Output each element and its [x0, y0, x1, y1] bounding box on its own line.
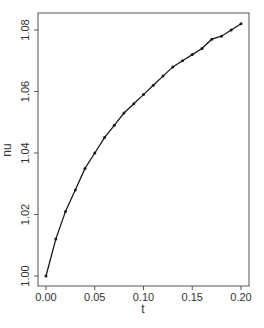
data-point — [103, 136, 106, 139]
data-point — [64, 210, 67, 213]
data-point — [84, 167, 87, 170]
data-point — [210, 38, 213, 41]
y-axis: 1.001.021.041.061.08 — [19, 19, 38, 286]
y-axis-title: nu — [0, 143, 14, 156]
data-point — [123, 112, 126, 115]
data-point — [220, 35, 223, 38]
data-point — [230, 29, 233, 32]
data-point — [45, 275, 48, 278]
x-tick-label: 0.00 — [35, 291, 56, 303]
data-point — [54, 238, 57, 241]
data-point — [201, 47, 204, 50]
x-tick-label: 0.15 — [182, 291, 203, 303]
x-axis-title: t — [141, 302, 145, 316]
x-axis: 0.000.050.100.150.20 — [35, 286, 251, 303]
x-tick-label: 0.20 — [230, 291, 251, 303]
data-point — [181, 59, 184, 62]
y-tick-label: 1.02 — [19, 204, 31, 225]
data-point — [152, 84, 155, 87]
data-point — [142, 93, 145, 96]
data-point — [93, 152, 96, 155]
x-tick-label: 0.05 — [84, 291, 105, 303]
line-chart: 0.000.050.100.150.20 1.001.021.041.061.0… — [0, 0, 264, 328]
data-point — [113, 124, 116, 127]
data-point — [162, 75, 165, 78]
data-point — [240, 22, 243, 25]
data-point — [171, 65, 174, 68]
y-tick-label: 1.06 — [19, 81, 31, 102]
data-point — [132, 102, 135, 105]
y-tick-label: 1.04 — [19, 142, 31, 163]
data-line — [46, 24, 241, 276]
data-point — [191, 53, 194, 56]
plot-box — [38, 13, 249, 286]
data-point — [74, 188, 77, 191]
data-points — [45, 22, 243, 277]
y-tick-label: 1.00 — [19, 265, 31, 286]
y-tick-label: 1.08 — [19, 19, 31, 40]
